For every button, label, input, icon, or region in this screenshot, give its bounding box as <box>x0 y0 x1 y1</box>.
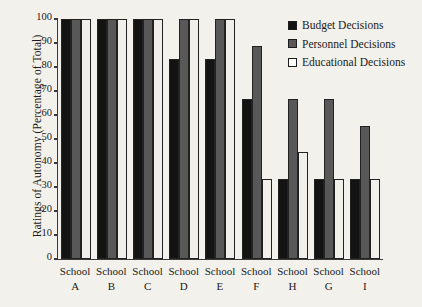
x-tick-label: SchoolH <box>274 264 310 294</box>
x-tick-label: SchoolB <box>93 264 129 294</box>
x-tick-label: SchoolI <box>347 264 383 294</box>
filled-gray-square-icon <box>288 39 297 48</box>
y-tick-label: 0 <box>47 251 52 262</box>
empty-white-square-icon <box>288 58 297 67</box>
bar <box>360 126 370 259</box>
x-axis-labels: SchoolASchoolBSchoolCSchoolDSchoolESchoo… <box>57 264 383 294</box>
y-tick-label: 80 <box>42 59 53 70</box>
bar <box>225 19 235 259</box>
y-tick-label: 30 <box>42 179 53 190</box>
y-tick-label: 60 <box>42 107 53 118</box>
bar <box>107 19 117 259</box>
bar <box>350 179 360 259</box>
y-tick-label: 10 <box>42 227 53 238</box>
x-tick-label: SchoolD <box>166 264 202 294</box>
bar <box>133 19 143 259</box>
bar <box>288 99 298 259</box>
bar-group <box>239 19 275 259</box>
legend-item: Budget Decisions <box>288 19 405 31</box>
bar <box>205 59 215 259</box>
bar <box>324 99 334 259</box>
legend-item-label: Budget Decisions <box>302 19 383 31</box>
legend-item-label: Personnel Decisions <box>302 38 396 50</box>
bar <box>314 179 324 259</box>
bar-group <box>58 19 94 259</box>
filled-black-square-icon <box>288 21 297 30</box>
bar <box>117 19 127 259</box>
y-tick-label: 70 <box>42 83 53 94</box>
bar <box>169 59 179 259</box>
bar-group <box>166 19 202 259</box>
bar <box>179 19 189 259</box>
bar-group <box>130 19 166 259</box>
bar <box>334 179 344 259</box>
legend-item: Educational Decisions <box>288 56 405 68</box>
bar <box>153 19 163 259</box>
x-tick-label: SchoolC <box>129 264 165 294</box>
y-tick-label: 40 <box>42 155 53 166</box>
bar <box>143 19 153 259</box>
bar-group <box>94 19 130 259</box>
y-tick-label: 50 <box>42 131 53 142</box>
bar <box>298 152 308 259</box>
chart-legend: Budget DecisionsPersonnel DecisionsEduca… <box>288 19 405 68</box>
bar <box>97 19 107 259</box>
bar-chart-figure: Ratings of Autonomy (Percentage of Total… <box>0 0 422 307</box>
bar <box>252 46 262 259</box>
x-tick-label: SchoolF <box>238 264 274 294</box>
x-tick-label: SchoolG <box>311 264 347 294</box>
legend-item-label: Educational Decisions <box>302 56 405 68</box>
bar <box>81 19 91 259</box>
x-tick-label: SchoolE <box>202 264 238 294</box>
y-tick-label: 100 <box>36 11 52 22</box>
legend-item: Personnel Decisions <box>288 38 405 50</box>
bar <box>189 19 199 259</box>
bar <box>242 99 252 259</box>
bar <box>262 179 272 259</box>
bar <box>278 179 288 259</box>
bar <box>71 19 81 259</box>
y-tick-label: 20 <box>42 203 53 214</box>
x-tick-label: SchoolA <box>57 264 93 294</box>
bar <box>215 19 225 259</box>
y-tick-label: 90 <box>42 35 53 46</box>
bar <box>370 179 380 259</box>
bar-group <box>202 19 238 259</box>
bar <box>61 19 71 259</box>
